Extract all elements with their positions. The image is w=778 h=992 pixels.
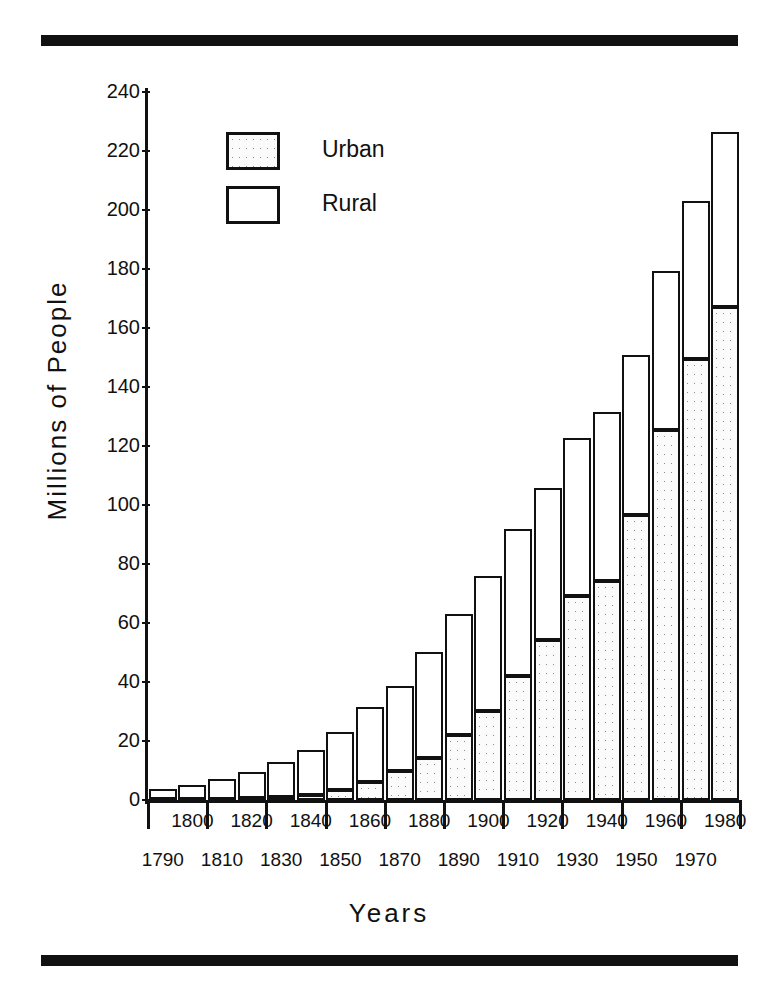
bar-segment-rural (267, 762, 295, 797)
bar-1920 (534, 488, 562, 800)
y-tick-label: 20 (88, 730, 140, 750)
bar-segment-urban (652, 430, 680, 800)
bar-1840 (297, 750, 325, 800)
bar-1940 (593, 412, 621, 800)
bar-1910 (504, 529, 532, 800)
bar-segment-rural (682, 201, 710, 359)
bar-1930 (563, 438, 591, 800)
bar-segment-rural (445, 614, 473, 734)
legend-item-rural: Rural (226, 186, 466, 240)
y-tick-label: 80 (88, 553, 140, 573)
y-axis-tick-labels: 020406080100120140160180200220240 (78, 60, 140, 820)
bar-1820 (238, 772, 266, 800)
bar-1850 (326, 732, 354, 800)
bar-1950 (622, 355, 650, 800)
bar-segment-rural (149, 789, 177, 800)
bar-1800 (178, 785, 206, 800)
bar-segment-urban (563, 596, 591, 800)
bar-segment-rural (563, 438, 591, 597)
bar-segment-urban (593, 581, 621, 800)
bar-segment-urban (415, 758, 443, 800)
y-axis-title: Millions of People (42, 191, 73, 611)
bar-1980 (711, 132, 739, 800)
chart-figure: 020406080100120140160180200220240 Millio… (0, 60, 778, 950)
bar-1900 (474, 576, 502, 800)
y-tick-label: 120 (88, 435, 140, 455)
y-tick-label: 60 (88, 612, 140, 632)
bar-segment-rural (534, 488, 562, 640)
bar-segment-rural (504, 529, 532, 677)
bar-segment-rural (593, 412, 621, 581)
bar-segment-rural (711, 132, 739, 308)
x-axis-title: Years (0, 898, 778, 929)
bar-segment-urban (682, 359, 710, 800)
bottom-rule (41, 955, 738, 966)
bar-segment-urban (504, 676, 532, 800)
x-tick-label-upper: 1980 (690, 811, 760, 830)
bar-1960 (652, 271, 680, 800)
bar-segment-urban (356, 782, 384, 800)
bar-segment-urban (534, 640, 562, 800)
bar-1870 (386, 686, 414, 800)
legend-label-urban: Urban (322, 138, 385, 161)
bar-segment-rural (326, 732, 354, 790)
y-tick-label: 0 (88, 789, 140, 809)
bar-segment-rural (178, 785, 206, 799)
legend-swatch-rural (226, 186, 280, 224)
bar-segment-rural (415, 652, 443, 758)
x-tick-label-lower: 1970 (661, 850, 731, 869)
y-tick-label: 160 (88, 317, 140, 337)
bar-1790 (149, 789, 177, 801)
legend-swatch-urban (226, 132, 280, 170)
bar-segment-rural (386, 686, 414, 771)
y-tick-label: 100 (88, 494, 140, 514)
bar-segment-urban (445, 735, 473, 800)
bar-1880 (415, 652, 443, 800)
legend-label-rural: Rural (322, 192, 377, 215)
y-tick-label: 140 (88, 376, 140, 396)
bar-segment-urban (297, 795, 325, 800)
bar-segment-rural (297, 750, 325, 795)
bar-segment-rural (208, 779, 236, 799)
chart-legend: Urban Rural (226, 132, 466, 240)
bar-1810 (208, 779, 236, 800)
y-tick-label: 180 (88, 258, 140, 278)
y-tick-label: 220 (88, 140, 140, 160)
y-tick-label: 240 (88, 81, 140, 101)
bar-segment-urban (326, 790, 354, 800)
bar-segment-rural (356, 707, 384, 781)
bar-segment-urban (622, 515, 650, 800)
bar-segment-rural (238, 772, 266, 798)
bar-segment-urban (474, 711, 502, 800)
bar-1890 (445, 614, 473, 800)
bar-segment-urban (386, 771, 414, 800)
y-tick-label: 40 (88, 671, 140, 691)
x-tick-mark (147, 803, 150, 829)
bar-segment-rural (652, 271, 680, 431)
bar-segment-rural (474, 576, 502, 711)
bar-1830 (267, 762, 295, 800)
bar-1970 (682, 201, 710, 800)
y-tick-label: 200 (88, 199, 140, 219)
bar-segment-rural (622, 355, 650, 515)
legend-item-urban: Urban (226, 132, 466, 186)
top-rule (41, 35, 738, 46)
bar-segment-urban (711, 307, 739, 800)
bar-1860 (356, 707, 384, 800)
